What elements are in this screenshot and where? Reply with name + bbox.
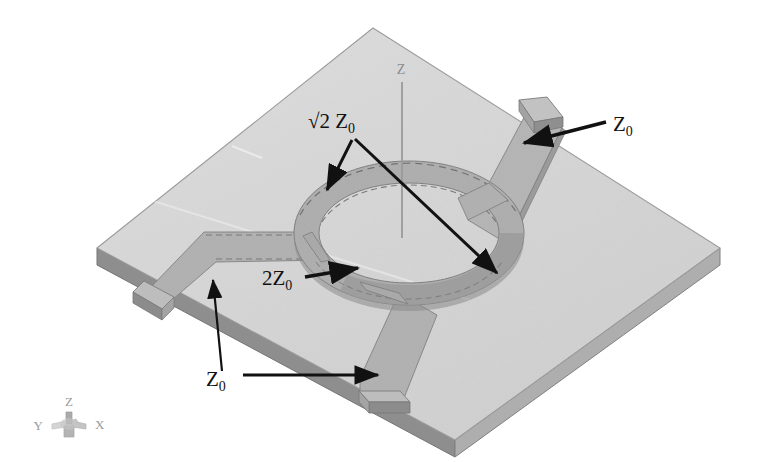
label-z0-bottom-left: Z0 [206,367,226,394]
triad-glyph [52,412,86,437]
triad-x-label: X [95,417,105,432]
label-sqrt2-z0: √2 Z0 [308,109,355,136]
triad-y-label: Y [34,418,44,433]
port-block-bottom [359,391,410,413]
triad-z-label: Z [65,394,73,409]
axis-triad: Z X Y [34,394,105,437]
label-z0-top-right: Z0 [613,112,633,139]
substrate-slab [97,28,720,457]
ring-hybrid-3d-view: Z √2 Z0 2Z0 Z0 [0,0,767,462]
z-axis-label: Z [397,62,406,77]
figure-canvas: Z √2 Z0 2Z0 Z0 [0,0,767,462]
port-block-bottom-front [369,402,410,413]
